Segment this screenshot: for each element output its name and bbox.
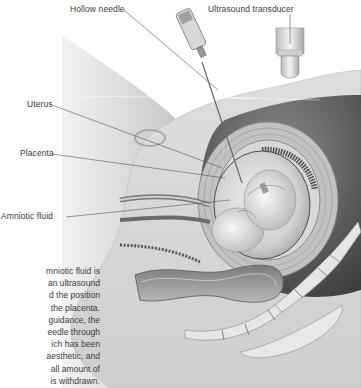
label-ultrasound-transducer: Ultrasound transducer — [208, 4, 294, 14]
caption-line: all amount of — [0, 363, 100, 375]
caption-line: ich has been — [0, 338, 100, 350]
label-hollow-needle: Hollow needle — [70, 4, 125, 14]
caption-line: mniotic fluid is — [0, 265, 100, 277]
label-uterus: Uterus — [27, 99, 53, 109]
label-placenta: Placenta — [20, 148, 54, 158]
caption-line: aesthetic, and — [0, 350, 100, 362]
caption-line: is withdrawn. — [0, 375, 100, 387]
caption-line: the placenta. — [0, 302, 100, 314]
caption-text: mniotic fluid is an ultrasound d the pos… — [0, 265, 100, 387]
amniocentesis-diagram: Hollow needle Ultrasound transducer Uter… — [0, 0, 361, 388]
caption-line: d the position — [0, 289, 100, 301]
caption-line: eedle through — [0, 326, 100, 338]
label-amniotic-fluid: Amniotic fluid — [1, 211, 53, 221]
caption-line: an ultrasound — [0, 277, 100, 289]
caption-line: guidance, the — [0, 314, 100, 326]
